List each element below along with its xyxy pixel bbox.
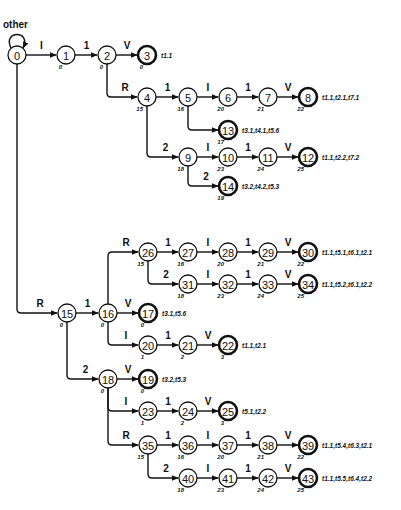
state-node-5: 516 (177, 88, 197, 112)
state-sublabel: 21 (256, 454, 264, 460)
state-sublabel: 25 (296, 166, 304, 172)
state-node-1: 10 (57, 46, 75, 70)
state-sublabel: 16 (177, 106, 184, 112)
edge-26-27: 1 (157, 237, 178, 252)
state-sublabel: 20 (216, 261, 224, 267)
state-id: 13 (222, 125, 234, 137)
state-sublabel: 22 (296, 106, 304, 112)
state-sublabel: 22 (296, 454, 304, 460)
edge-label: I (207, 463, 210, 474)
edge-label: I (207, 237, 210, 248)
state-sublabel: 17 (217, 139, 224, 145)
state-sublabel: 15 (137, 261, 144, 267)
edge-7-8: V (277, 82, 298, 97)
state-id: 31 (182, 279, 194, 291)
edge-label: V (205, 396, 212, 407)
edge-41-42: 1 (237, 463, 258, 478)
state-id: 21 (182, 340, 194, 352)
edge-label: V (285, 463, 292, 474)
edge-label: R (122, 430, 130, 441)
edge-0-1: I (26, 40, 56, 55)
state-node-12: 1225t1.1,t2.2,t7.2 (296, 148, 359, 172)
state-node-19: 190t3.2,t5.3 (139, 370, 187, 394)
state-node-14: 1419t3.2,t4.2,t5.3 (217, 177, 279, 201)
state-node-7: 721 (256, 88, 277, 112)
edge-line (188, 106, 218, 130)
state-node-37: 3720 (216, 436, 237, 460)
edge-label: 1 (165, 237, 171, 248)
edge-line (108, 322, 138, 345)
state-id: 41 (222, 473, 234, 485)
edge-27-28: I (197, 237, 218, 252)
state-output-tags: t3.2,t5.3 (162, 376, 187, 384)
edge-label: 1 (165, 82, 171, 93)
state-id: 19 (142, 374, 154, 386)
state-node-40: 4018 (177, 469, 197, 493)
edge-line (108, 252, 138, 304)
state-output-tags: t3.2,t4.2,t5.3 (242, 183, 280, 191)
state-id: 6 (225, 92, 231, 104)
edge-33-34: V (277, 269, 298, 284)
state-id: 11 (262, 152, 273, 164)
edge-label: I (125, 330, 128, 341)
state-sublabel: 16 (177, 454, 184, 460)
state-node-6: 620 (216, 88, 237, 112)
state-node-38: 3821 (256, 436, 277, 460)
state-node-10: 1023 (216, 148, 237, 172)
state-sublabel: 23 (216, 487, 224, 493)
state-node-42: 4224 (256, 469, 277, 493)
state-sublabel: 1 (141, 420, 145, 426)
state-sublabel: 0 (100, 64, 104, 70)
edge-5-13 (188, 106, 218, 130)
edge-35-36: 1 (157, 430, 178, 445)
state-sublabel: 0 (101, 388, 105, 394)
state-id: 40 (182, 473, 194, 485)
edge-18-35: R (108, 388, 138, 445)
edge-0-15: R (17, 64, 57, 313)
state-output-tags: t1.1,t2.1,t7.1 (322, 94, 360, 102)
state-id: 20 (142, 340, 154, 352)
state-id: 38 (262, 440, 274, 452)
edge-label: I (125, 396, 128, 407)
state-node-4: 415 (136, 88, 156, 112)
state-id: 12 (302, 152, 314, 164)
edge-label: I (207, 430, 210, 441)
state-sublabel: 18 (177, 487, 184, 493)
state-sublabel: 16 (177, 261, 184, 267)
state-node-17: 170t3.1,t5.6 (139, 304, 187, 328)
edge-label: 2 (163, 463, 169, 474)
state-sublabel: 0 (59, 64, 63, 70)
state-id: 33 (262, 279, 274, 291)
edge-label: I (40, 40, 43, 51)
edge-6-7: 1 (237, 82, 258, 97)
edge-10-11: 1 (237, 142, 258, 157)
edge-label: 1 (245, 237, 251, 248)
state-sublabel: 0 (60, 322, 64, 328)
edge-36-37: I (197, 430, 218, 445)
state-sublabel: 21 (256, 261, 264, 267)
state-output-tags: t1.1,t5.5,t6.4,t2.2 (322, 475, 373, 483)
state-node-23: 231 (139, 402, 157, 426)
edge-line (108, 388, 138, 411)
state-output-tags: t1.1,t5.2,t6.1,t2.2 (322, 281, 373, 289)
state-node-29: 2921 (256, 243, 277, 267)
state-sublabel: 23 (216, 166, 224, 172)
state-sublabel: 20 (216, 454, 224, 460)
state-node-43: 4325t1.1,t5.5,t6.4,t2.2 (296, 469, 372, 493)
edge-26-31: 2 (148, 261, 178, 284)
edge-label: V (125, 298, 132, 309)
edge-label: R (122, 237, 130, 248)
state-node-30: 3022t1.1,t5.1,t6.1,t2.1 (296, 243, 372, 267)
edge-35-40: 2 (148, 454, 178, 478)
state-sublabel: 15 (136, 106, 143, 112)
state-sublabel: 2 (180, 354, 185, 360)
state-node-41: 4123 (216, 469, 237, 493)
state-sublabel: 0 (141, 388, 145, 394)
edge-label: 2 (163, 269, 169, 280)
state-sublabel: 15 (137, 454, 144, 460)
state-id: 27 (182, 247, 194, 259)
state-id: 0 (14, 50, 20, 62)
state-node-24: 242 (179, 402, 197, 426)
state-sublabel: 24 (256, 487, 264, 493)
state-node-34: 3425t1.1,t5.2,t6.1,t2.2 (296, 275, 372, 299)
